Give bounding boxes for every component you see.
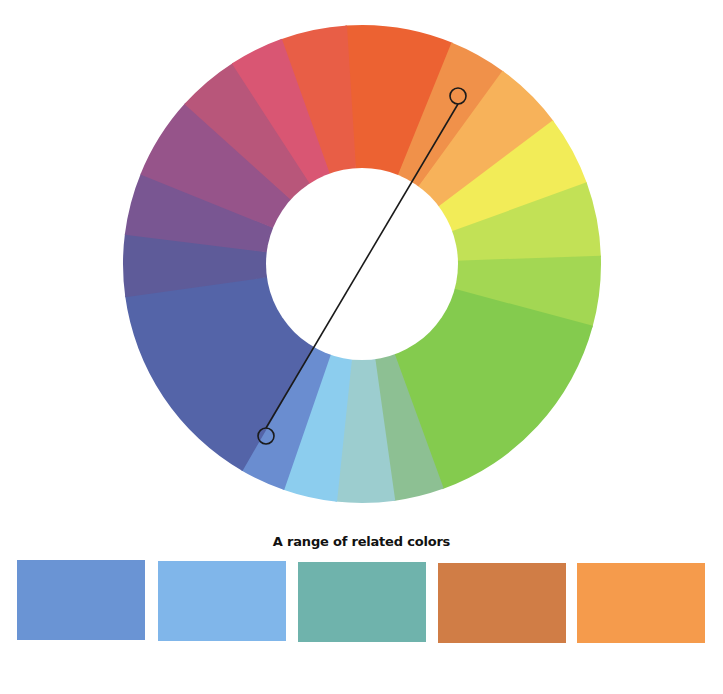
swatch-caption: A range of related colors <box>0 534 723 549</box>
wheel-center-hole <box>266 168 458 360</box>
color-wheel <box>0 0 723 530</box>
swatch-teal[interactable] <box>298 562 426 642</box>
swatch-light-blue[interactable] <box>158 561 286 641</box>
swatch-orange[interactable] <box>577 563 705 643</box>
swatch-burnt-orange[interactable] <box>438 563 566 643</box>
swatch-medium-blue[interactable] <box>17 560 145 640</box>
